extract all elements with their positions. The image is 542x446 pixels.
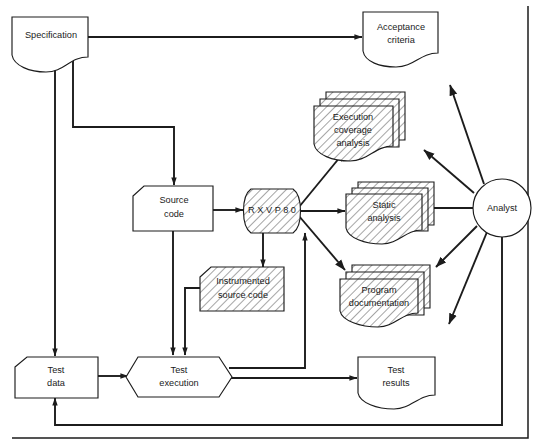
edge-analyst-to-program-doc — [436, 226, 477, 267]
test-execution-label-line-2: execution — [159, 378, 198, 388]
program-documentation-label-line-1: Program — [361, 285, 397, 295]
node-acceptance-criteria[interactable]: Acceptance criteria — [363, 12, 438, 67]
node-analyst[interactable]: Analyst — [473, 179, 531, 237]
test-results-label-line-1: Test — [388, 365, 405, 375]
static-analysis-label-line-1: Static — [373, 200, 396, 210]
instrumented-source-code-label-line-2: source code — [218, 290, 268, 300]
edge-analyst-feedback-to-test-data — [55, 232, 502, 425]
source-code-label-line-1: Source — [159, 195, 188, 205]
node-test-results[interactable]: Test results — [358, 357, 435, 409]
node-source-code[interactable]: Source code — [133, 186, 213, 231]
node-static-analysis[interactable]: Static analysis — [346, 182, 434, 244]
diagram-svg: Specification Acceptance criteria Source… — [0, 0, 542, 446]
test-data-label-line-1: Test — [48, 365, 65, 375]
execution-coverage-label-line-3: analysis — [336, 138, 370, 148]
instrumented-source-code-shape — [200, 267, 284, 311]
instrumented-source-code-label-line-1: Instrumented — [216, 276, 270, 286]
source-code-label-line-2: code — [164, 209, 184, 219]
execution-coverage-label-line-1: Execution — [333, 112, 373, 122]
test-results-label-line-2: results — [382, 378, 409, 388]
node-rxvp80[interactable]: R X V P 8 0 — [244, 189, 301, 233]
node-test-execution[interactable]: Test execution — [126, 357, 232, 397]
program-documentation-label-line-2: documentation — [349, 298, 409, 308]
node-program-documentation[interactable]: Program documentation — [340, 265, 430, 327]
edge-analyst-lower-output — [449, 232, 487, 324]
rxvp80-label: R X V P 8 0 — [248, 205, 296, 215]
node-execution-coverage-analysis[interactable]: Execution coverage analysis — [314, 92, 405, 161]
test-execution-label-line-1: Test — [171, 365, 188, 375]
node-instrumented-source-code[interactable]: Instrumented source code — [200, 267, 284, 311]
node-test-data[interactable]: Test data — [15, 357, 98, 398]
edge-instrumented-to-test-execution — [185, 288, 200, 355]
diagram-canvas: Specification Acceptance criteria Source… — [0, 0, 542, 446]
specification-label: Specification — [25, 30, 77, 40]
acceptance-criteria-label-line-2: criteria — [387, 35, 415, 45]
analyst-label: Analyst — [487, 203, 518, 213]
test-execution-shape — [126, 357, 232, 397]
execution-coverage-label-line-2: coverage — [334, 125, 372, 135]
static-analysis-label-line-2: analysis — [367, 213, 401, 223]
test-data-label-line-2: data — [47, 378, 66, 388]
acceptance-criteria-label-line-1: Acceptance — [377, 22, 425, 32]
node-specification[interactable]: Specification — [12, 17, 88, 72]
edge-analyst-upper-output — [450, 85, 484, 184]
specification-shape — [12, 17, 88, 72]
edge-spec-to-source-code — [73, 58, 174, 185]
